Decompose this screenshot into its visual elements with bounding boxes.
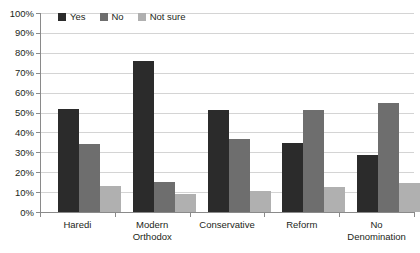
y-axis-label-50: 50% [0, 108, 34, 118]
gridline-80 [40, 53, 414, 54]
legend-label-yes: Yes [70, 12, 86, 22]
x-tick-1 [115, 212, 116, 217]
legend-swatch-no-icon [100, 13, 108, 21]
bar-reform-no [303, 110, 324, 213]
bar-no-denomination-no [378, 103, 399, 213]
legend-item-no[interactable]: No [100, 12, 124, 22]
bar-haredi-not-sure [100, 186, 121, 212]
x-tick-5 [414, 212, 415, 217]
y-tick-50 [36, 113, 40, 114]
legend-swatch-not-sure-icon [138, 13, 146, 21]
x-tick-2 [190, 212, 191, 217]
y-axis-label-20: 20% [0, 168, 34, 178]
y-axis-label-100: 100% [0, 9, 34, 19]
x-axis-label-reform: Reform [264, 219, 339, 231]
x-tick-4 [339, 212, 340, 217]
bar-modern-orthodox-no [154, 182, 175, 212]
legend-item-yes[interactable]: Yes [58, 12, 86, 22]
y-tick-60 [36, 93, 40, 94]
bar-conservative-no [229, 139, 250, 212]
plot-area [40, 13, 414, 212]
bar-modern-orthodox-yes [133, 61, 154, 212]
gridline-70 [40, 73, 414, 74]
x-axis-line [40, 212, 414, 213]
y-axis-label-60: 60% [0, 88, 34, 98]
bar-no-denomination-yes [357, 155, 378, 212]
bar-modern-orthodox-not-sure [175, 194, 196, 212]
y-tick-80 [36, 53, 40, 54]
bar-haredi-yes [58, 109, 79, 213]
legend-label-no: No [112, 12, 124, 22]
gridline-60 [40, 93, 414, 94]
bar-no-denomination-not-sure [399, 183, 420, 212]
y-axis-label-30: 30% [0, 148, 34, 158]
bar-conservative-not-sure [250, 191, 271, 212]
legend-swatch-yes-icon [58, 13, 66, 21]
bar-haredi-no [79, 144, 100, 212]
x-axis-label-no-denomination: No Denomination [339, 219, 414, 243]
y-tick-100 [36, 13, 40, 14]
legend-label-not-sure: Not sure [150, 12, 186, 22]
y-tick-30 [36, 152, 40, 153]
bar-reform-not-sure [324, 187, 345, 212]
gridline-90 [40, 33, 414, 34]
bar-reform-yes [282, 143, 303, 212]
x-axis-label-modern-orthodox: Modern Orthodox [115, 219, 190, 243]
x-axis-label-conservative: Conservative [190, 219, 265, 231]
x-tick-0 [40, 212, 41, 217]
y-axis-label-0: 0% [0, 208, 34, 218]
y-axis-label-10: 10% [0, 188, 34, 198]
y-tick-90 [36, 33, 40, 34]
x-tick-3 [264, 212, 265, 217]
legend-item-not-sure[interactable]: Not sure [138, 12, 186, 22]
y-axis-label-40: 40% [0, 128, 34, 138]
y-tick-40 [36, 132, 40, 133]
y-tick-10 [36, 192, 40, 193]
bar-conservative-yes [208, 110, 229, 213]
x-axis-label-haredi: Haredi [40, 219, 115, 231]
y-axis-line [40, 13, 41, 213]
y-tick-70 [36, 73, 40, 74]
y-tick-20 [36, 172, 40, 173]
y-axis-label-90: 90% [0, 28, 34, 38]
y-axis-label-70: 70% [0, 68, 34, 78]
legend: Yes No Not sure [58, 12, 186, 22]
y-axis-label-80: 80% [0, 48, 34, 58]
